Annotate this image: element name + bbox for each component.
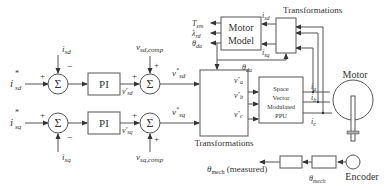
encoder <box>346 155 360 169</box>
coupling <box>347 131 359 134</box>
svg-text:*: * <box>15 69 19 78</box>
plus-sign: + <box>40 71 45 81</box>
svg-text:isq: isq <box>262 48 270 58</box>
svg-text:+: + <box>132 110 137 120</box>
control-block-diagram: i * sd + Σ isd − PI v'sd + Σ vsd,comp + … <box>0 0 390 190</box>
svg-text:Transformations: Transformations <box>283 5 343 15</box>
svg-text:isq: isq <box>62 152 71 164</box>
svg-text:*: * <box>15 108 19 117</box>
svg-text:PPU: PPU <box>275 112 287 119</box>
svg-text:+: + <box>154 60 159 70</box>
svg-text:Tem: Tem <box>192 19 204 29</box>
svg-text:sd: sd <box>15 84 22 92</box>
svg-text:ib: ib <box>311 93 316 103</box>
transformations-top-block <box>276 18 296 53</box>
svg-text:i: i <box>10 116 13 128</box>
svg-text:Σ: Σ <box>55 77 62 91</box>
isd-ref-label: i <box>10 77 13 89</box>
svg-text:ic: ic <box>311 117 316 127</box>
q-axis-path: i * sq + Σ isq − PI v'sq + Σ vsq,comp + … <box>10 106 199 164</box>
svg-text:Motor: Motor <box>229 22 255 33</box>
svg-text:Σ: Σ <box>55 116 62 130</box>
svg-text:sq: sq <box>15 123 22 131</box>
svg-text:vsq,comp: vsq,comp <box>136 152 164 164</box>
svg-text:+: + <box>132 71 137 81</box>
svg-text:Transformations: Transformations <box>194 138 254 148</box>
svg-text:vsd,comp: vsd,comp <box>136 42 164 54</box>
filter-block <box>280 156 302 168</box>
svg-text:PI: PI <box>99 78 109 90</box>
svg-text:Vector: Vector <box>273 94 291 101</box>
svg-text:θda: θda <box>192 39 202 49</box>
d-axis-path: i * sd + Σ isd − PI v'sd + Σ vsd,comp + … <box>10 42 199 96</box>
svg-text:Σ: Σ <box>147 116 154 130</box>
svg-text:Motor: Motor <box>343 69 369 80</box>
svg-text:PI: PI <box>99 117 109 129</box>
svg-text:isd: isd <box>262 11 271 21</box>
svg-text:v*sd: v*sd <box>172 67 186 80</box>
svg-text:θda: θda <box>242 63 252 73</box>
theta-mech-measured-label: θmech (measured) <box>207 164 267 175</box>
svg-text:v'sd: v'sd <box>122 87 134 96</box>
svg-text:θmech: θmech <box>309 174 326 184</box>
svg-text:v'sq: v'sq <box>122 126 133 135</box>
svg-text:v*sq: v*sq <box>172 106 186 119</box>
svg-text:+: + <box>154 134 159 144</box>
svg-text:λrd: λrd <box>191 29 202 39</box>
svg-text:Model: Model <box>228 35 254 46</box>
svg-text:Σ: Σ <box>147 77 154 91</box>
svg-text:−: − <box>67 132 73 143</box>
svg-text:Encoder: Encoder <box>345 171 379 182</box>
isd-fb-label: isd <box>62 44 71 56</box>
svg-text:ia: ia <box>311 82 316 92</box>
svg-text:Modulated: Modulated <box>267 103 296 110</box>
svg-text:+: + <box>40 110 45 120</box>
svg-text:−: − <box>67 61 73 72</box>
encoder-processing-block <box>312 156 336 168</box>
svg-text:Space: Space <box>273 85 289 92</box>
